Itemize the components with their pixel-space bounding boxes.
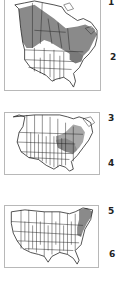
map-label-6: 6 bbox=[109, 249, 115, 259]
map-label-2: 2 bbox=[110, 52, 116, 62]
north-america-map bbox=[5, 0, 100, 90]
range-map-1 bbox=[4, 0, 101, 91]
map-label-1: 1 bbox=[108, 0, 114, 7]
map-label-4: 4 bbox=[108, 158, 114, 168]
arctic-islands bbox=[64, 3, 74, 11]
range-shade-northeast-coast bbox=[77, 208, 92, 237]
usa-map bbox=[5, 206, 98, 267]
range-shade-boreal bbox=[19, 5, 97, 58]
boundaries bbox=[17, 115, 83, 167]
north-america-east-map bbox=[5, 113, 99, 174]
map-label-3: 3 bbox=[108, 113, 114, 123]
map-label-5: 5 bbox=[108, 206, 114, 216]
range-map-2 bbox=[4, 112, 100, 175]
state-boundaries bbox=[11, 210, 83, 256]
range-map-3 bbox=[4, 205, 99, 268]
